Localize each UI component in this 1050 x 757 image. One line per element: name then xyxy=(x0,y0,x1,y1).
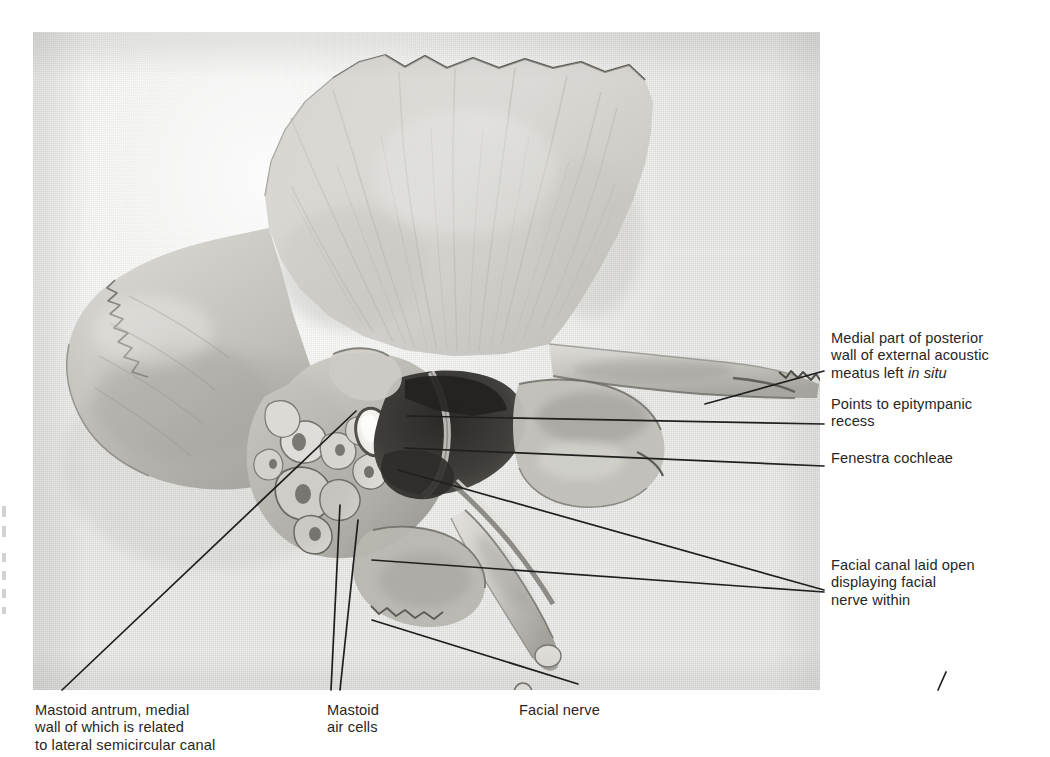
margin-mark xyxy=(2,553,6,562)
margin-mark xyxy=(2,589,6,598)
label-mastoid-antrum: Mastoid antrum, medial wall of which is … xyxy=(35,702,215,754)
margin-mark xyxy=(2,571,6,580)
specimen-photograph xyxy=(33,32,820,690)
anatomy-plate: Medial part of posterior wall of externa… xyxy=(0,0,1050,757)
corner-tick xyxy=(938,672,946,690)
label-mastoid-air-cells: Mastoid air cells xyxy=(327,702,379,737)
label-facial-nerve: Facial nerve xyxy=(519,702,600,719)
margin-mark xyxy=(2,607,6,614)
photo-edge-vignette xyxy=(33,32,820,690)
label-facial-canal: Facial canal laid open displaying facial… xyxy=(831,557,975,609)
label-fenestra-cochleae: Fenestra cochleae xyxy=(831,450,953,467)
margin-mark xyxy=(2,526,6,537)
margin-mark xyxy=(2,506,6,517)
label-epitympanic-recess: Points to epitympanic recess xyxy=(831,396,972,431)
page-margin-type-fragment xyxy=(0,506,9,672)
label-medial-wall-italic: in situ xyxy=(908,365,947,381)
label-medial-wall-of-meatus: Medial part of posterior wall of externa… xyxy=(831,330,989,382)
